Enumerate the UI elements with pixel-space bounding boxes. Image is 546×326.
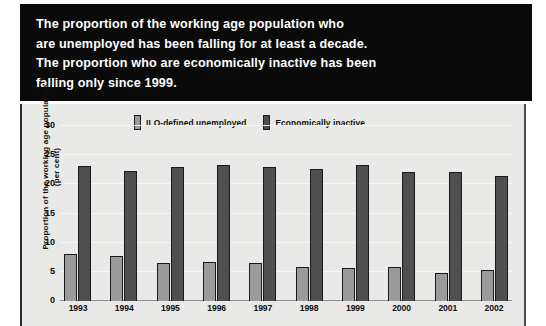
x-axis-label-1996: 1996: [203, 303, 231, 313]
bar-1996-inactive: [217, 165, 230, 302]
bar-1996-unemployed: [203, 262, 216, 301]
y-axis-title: Proportion of the working age population…: [40, 82, 62, 252]
bar-1998-unemployed: [296, 267, 309, 301]
headline-line-1: The proportion of the working age popula…: [36, 15, 518, 35]
bar-2002-unemployed: [481, 270, 494, 301]
x-axis-label-2002: 2002: [480, 303, 508, 313]
bar-2001-unemployed: [435, 273, 448, 301]
bar-2001-inactive: [449, 172, 462, 301]
x-axis-labels: 1993199419951996199719981999200020012002: [60, 303, 512, 313]
bar-1995-inactive: [171, 167, 184, 301]
x-axis-label-2001: 2001: [434, 303, 462, 313]
headline-line-4: falling only since 1999.: [36, 74, 518, 94]
bar-1997-inactive: [263, 167, 276, 301]
bar-group-1996: [203, 126, 230, 301]
bar-1994-unemployed: [110, 256, 123, 301]
x-axis-label-1998: 1998: [295, 303, 323, 313]
x-axis-label-2000: 2000: [388, 303, 416, 313]
bar-group-1993: [64, 126, 91, 301]
bar-group-1995: [157, 126, 184, 301]
headline-line-2: are unemployed has been falling for at l…: [36, 35, 518, 55]
bar-group-1997: [249, 126, 276, 301]
bar-group-1999: [342, 126, 369, 301]
headline-line-3: The proportion who are economically inac…: [36, 54, 518, 74]
x-axis-label-1999: 1999: [341, 303, 369, 313]
y-tick-label-10: 10: [45, 237, 55, 246]
bar-group-1998: [296, 126, 323, 301]
bar-1997-unemployed: [249, 263, 262, 301]
bar-1998-inactive: [310, 169, 323, 301]
plot-area: 051015202530: [60, 126, 512, 301]
x-axis-label-1995: 1995: [156, 303, 184, 313]
bar-group-1994: [110, 126, 137, 301]
y-tick-label-15: 15: [45, 208, 55, 217]
y-tick-label-5: 5: [50, 266, 55, 275]
figure-root: The proportion of the working age popula…: [0, 0, 546, 326]
chart-panel: Proportion of the working age population…: [20, 104, 526, 326]
x-axis-label-1994: 1994: [110, 303, 138, 313]
bar-groups: [60, 126, 512, 301]
bar-group-2000: [388, 126, 415, 301]
bar-1999-unemployed: [342, 268, 355, 301]
bar-2000-unemployed: [388, 267, 401, 301]
x-axis-label-1997: 1997: [249, 303, 277, 313]
headline-banner: The proportion of the working age popula…: [20, 4, 532, 101]
y-tick-label-0: 0: [50, 296, 55, 305]
bar-1994-inactive: [124, 171, 137, 301]
y-tick-label-20: 20: [45, 179, 55, 188]
bar-1993-inactive: [78, 166, 91, 301]
bar-2002-inactive: [495, 176, 508, 301]
bar-group-2001: [435, 126, 462, 301]
bar-1995-unemployed: [157, 263, 170, 302]
y-tick-label-30: 30: [45, 121, 55, 130]
bar-group-2002: [481, 126, 508, 301]
y-tick-label-25: 25: [45, 150, 55, 159]
bar-1993-unemployed: [64, 254, 77, 301]
y-axis-title-line-1: Proportion of the working age population: [40, 82, 51, 252]
x-axis-label-1993: 1993: [64, 303, 92, 313]
bar-1999-inactive: [356, 165, 369, 302]
bar-2000-inactive: [402, 172, 415, 302]
